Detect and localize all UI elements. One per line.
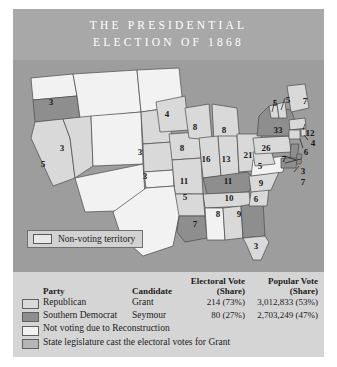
vote-IL: 16 [202,154,211,164]
table-row: Republican Grant 214 (73%) 3,012,833 (53… [22,296,318,309]
vote-NY: 33 [274,125,283,135]
state-KS [143,142,173,172]
vote-NE: 3 [138,147,143,157]
vote-OH: 21 [244,150,253,160]
vote-WI: 8 [193,122,198,132]
party-southern-democrat: Southern Democrat [43,309,132,322]
terr-ID-MT [73,70,141,118]
title-line-1: THE PRESIDENTIAL [13,19,324,31]
vote-FL: 3 [254,241,259,251]
vote-NV: 3 [60,143,65,153]
vote-IN: 13 [222,154,231,164]
swatch-state-legislature-cell [22,336,43,350]
header-popular-line1: Popular Vote [245,276,318,286]
swatch-southern-democrat-cell [22,309,43,322]
vote-CT: 6 [304,147,309,157]
title-line-2: ELECTION OF 1868 [13,36,324,48]
table-note-row: Not voting due to Reconstruction [22,322,318,336]
state-GA [241,202,265,238]
swatch-republican [22,299,39,309]
figure-container: THE PRESIDENTIAL ELECTION OF 1868 [13,9,324,357]
vote-MN: 4 [165,109,170,119]
state-CT [289,130,300,139]
title-band: THE PRESIDENTIAL ELECTION OF 1868 [13,9,324,60]
header-electoral-line2: (Share) [180,286,245,296]
vote-SC: 6 [254,194,259,204]
vote-KS: 3 [143,171,148,181]
vote-OR: 3 [49,97,54,107]
swatch-not-voting-cell [22,322,43,336]
header-popular-line2: (Share) [245,286,318,296]
table-row: Southern Democrat Seymour 80 (27%) 2,703… [22,309,318,322]
electoral-republican: 214 (73%) [180,296,245,309]
state-WA [31,74,77,100]
table-header-row: Party Candidate Electoral Vote (Share) P… [22,276,318,296]
non-voting-territory-swatch [33,234,52,244]
election-map: 3 3 5 4 8 8 8 3 3 11 16 13 21 11 10 5 7 … [13,60,324,272]
header-popular-vote: Popular Vote (Share) [245,276,318,296]
vote-GA: 9 [237,209,242,219]
vote-VT: 5 [273,98,278,108]
terr-IN [144,170,174,188]
table-note-row: State legislature cast the electoral vot… [22,336,318,350]
electoral-southern-democrat: 80 (27%) [180,309,245,322]
vote-ME: 7 [303,96,308,106]
vote-NC: 9 [259,178,264,188]
vote-IA: 8 [180,143,185,153]
vote-LA: 7 [193,219,198,229]
swatch-republican-cell [22,296,43,309]
non-voting-territory-label: Non-voting territory [58,234,135,244]
candidate-grant: Grant [132,296,180,309]
vote-WV: 5 [258,161,263,171]
vote-AL: 8 [216,209,221,219]
candidate-seymour: Seymour [132,309,180,322]
vote-MO: 11 [180,176,189,186]
vote-AR: 5 [183,192,188,202]
header-electoral-vote: Electoral Vote (Share) [180,276,245,296]
vote-TN: 10 [225,193,234,203]
note-not-voting: Not voting due to Reconstruction [43,322,318,336]
header-party: Party [43,276,132,296]
popular-southern-democrat: 2,703,249 (47%) [245,309,318,322]
state-PA [253,136,291,154]
party-republican: Republican [43,296,132,309]
state-WI [185,104,212,140]
results-table: Party Candidate Electoral Vote (Share) P… [22,276,318,349]
non-voting-territory-legend: Non-voting territory [27,230,143,248]
vote-MD: 7 [301,177,306,187]
header-swatch-spacer [22,276,43,296]
legend-table-panel: Party Candidate Electoral Vote (Share) P… [13,272,324,357]
swatch-not-voting [22,326,39,336]
header-candidate: Candidate [132,276,180,296]
state-MN [156,96,189,132]
vote-NH: 5 [286,95,291,105]
terr-UT-CO [91,112,143,166]
vote-DE: 3 [301,166,306,176]
header-electoral-line1: Electoral Vote [180,276,245,286]
vote-RI: 4 [311,138,316,148]
vote-MI: 8 [222,125,227,135]
vote-NJ: 7 [282,154,287,164]
vote-CA: 5 [41,159,46,169]
vote-PA: 26 [262,143,271,153]
popular-republican: 3,012,833 (53%) [245,296,318,309]
vote-KY: 11 [224,176,233,186]
vote-MA: 12 [306,128,315,138]
swatch-state-legislature [22,339,39,349]
state-AR [175,194,205,216]
swatch-southern-democrat [22,312,39,322]
note-state-legislature: State legislature cast the electoral vot… [43,336,318,350]
